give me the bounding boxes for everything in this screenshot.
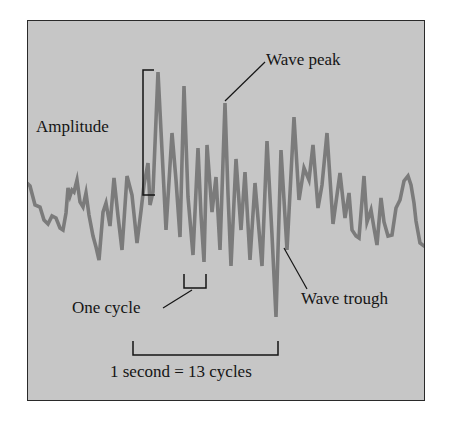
brain-wave-trace — [27, 72, 426, 317]
wave-peak-leader-line — [225, 62, 265, 101]
scale-label: 1 second = 13 cycles — [110, 363, 252, 380]
amplitude-label: Amplitude — [36, 118, 109, 135]
one-cycle-bracket — [184, 274, 206, 288]
one-cycle-leader-line — [163, 290, 192, 308]
one-second-bracket — [133, 341, 278, 355]
wave-trough-leader-line — [284, 248, 307, 289]
wave-trough-label: Wave trough — [301, 290, 388, 307]
one-cycle-label: One cycle — [72, 299, 140, 316]
wave-peak-label: Wave peak — [266, 51, 341, 68]
